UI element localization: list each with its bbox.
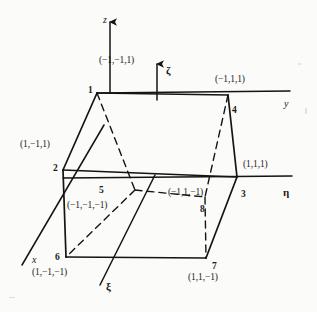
node-number-7: 7 bbox=[212, 262, 217, 272]
node-number-3: 3 bbox=[241, 190, 246, 200]
axis-eta-line bbox=[63, 176, 292, 178]
node-number-1: 1 bbox=[88, 86, 93, 96]
edge-4-8 bbox=[205, 95, 228, 197]
axis-lines bbox=[22, 22, 292, 285]
node-coordinates-3: (1,1,1) bbox=[243, 160, 268, 170]
axis-x-label: x bbox=[32, 255, 36, 265]
node-number-5: 5 bbox=[99, 186, 104, 196]
edge-2-6 bbox=[63, 170, 66, 257]
node-coordinates-7: (1,1,−1) bbox=[188, 273, 218, 283]
node-coordinates-2: (1,−1,1) bbox=[20, 140, 50, 150]
element-diagram: 1(−1,−1,1)2(1,−1,1)3(1,1,1)4(−1,1,1)5(−1… bbox=[0, 0, 317, 312]
cube-edges bbox=[63, 93, 237, 258]
axis-xi-line bbox=[100, 175, 155, 285]
node-number-8: 8 bbox=[200, 205, 205, 215]
edge-3-7 bbox=[206, 177, 237, 258]
axis-y-line bbox=[97, 91, 290, 93]
node-coordinates-4: (−1,1,1) bbox=[215, 75, 245, 85]
node-coordinates-1: (−1,−1,1) bbox=[99, 56, 134, 66]
print-speck bbox=[305, 108, 307, 114]
node-number-4: 4 bbox=[232, 106, 237, 116]
edge-1-5 bbox=[97, 93, 135, 190]
node-number-2: 2 bbox=[53, 164, 58, 174]
axis-xi-label: ξ bbox=[106, 281, 111, 292]
node-coordinates-6: (1,−1,−1) bbox=[32, 268, 67, 278]
print-speck bbox=[9, 297, 15, 298]
node-coordinates-5: (−1,−1,−1) bbox=[67, 201, 107, 211]
edge-1-2 bbox=[63, 93, 97, 170]
node-coordinates-8: (−1,1,−1) bbox=[168, 188, 203, 198]
axis-z-label: z bbox=[103, 15, 107, 25]
edge-6-7 bbox=[66, 257, 206, 258]
edge-8-7 bbox=[205, 197, 206, 258]
axis-eta-label: η bbox=[283, 187, 289, 198]
axis-zeta-label: ζ bbox=[166, 65, 171, 76]
diagram-canvas bbox=[0, 0, 317, 312]
node-number-6: 6 bbox=[55, 253, 60, 263]
print-speck bbox=[298, 63, 301, 65]
axis-y-label: y bbox=[284, 99, 288, 109]
